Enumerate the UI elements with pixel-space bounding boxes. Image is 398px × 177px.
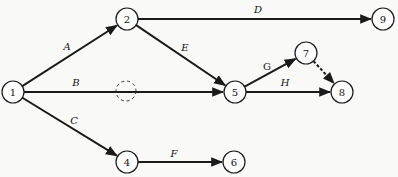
edge-f: F: [138, 148, 222, 162]
edge-e: E: [136, 25, 225, 85]
edge-label: E: [180, 42, 189, 53]
edge-d: D: [138, 4, 371, 19]
edge-label: C: [70, 115, 78, 126]
edge-label: G: [263, 61, 271, 72]
arrow-line: [22, 98, 116, 156]
edge-dummy-7-8: [313, 61, 333, 83]
node-7: 7: [295, 42, 317, 64]
edge-label: F: [170, 148, 179, 159]
node-label: 6: [231, 157, 237, 168]
edge-label: A: [62, 41, 70, 52]
edge-a: A: [22, 25, 117, 86]
node-8: 8: [331, 81, 353, 103]
nodes-layer: 12456789: [2, 8, 394, 173]
network-diagram-svg: ABCDEFGH 12456789: [0, 0, 398, 177]
edge-label: H: [280, 77, 290, 88]
node-label: 2: [124, 14, 130, 25]
edge-c: C: [22, 98, 116, 156]
node-label: 8: [339, 87, 345, 98]
arrow-line: [22, 25, 117, 86]
edge-label: B: [71, 77, 79, 88]
node-6: 6: [223, 151, 245, 173]
node-4: 4: [116, 151, 138, 173]
node-label: 4: [124, 157, 130, 168]
edge-b: B: [24, 77, 223, 92]
edges-layer: ABCDEFGH: [22, 4, 371, 162]
node-5: 5: [224, 81, 246, 103]
node-label: 1: [10, 87, 16, 98]
node-9: 9: [372, 8, 394, 30]
node-label: 9: [380, 14, 386, 25]
node-1: 1: [2, 81, 24, 103]
arrow-line: [313, 61, 333, 83]
node-2: 2: [116, 8, 138, 30]
arrow-line: [136, 25, 225, 85]
edge-label: D: [253, 4, 262, 15]
node-label: 7: [303, 48, 309, 59]
node-label: 5: [232, 87, 238, 98]
network-diagram: ABCDEFGH 12456789: [0, 0, 398, 177]
